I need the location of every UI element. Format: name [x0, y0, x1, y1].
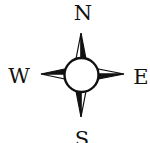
- west-pointer: [41, 69, 65, 79]
- east-label: E: [133, 65, 148, 89]
- south-label: S: [75, 127, 89, 143]
- north-label: N: [74, 1, 92, 25]
- north-pointer: [76, 33, 86, 59]
- compass-rose-diagram: N W E S: [0, 0, 150, 143]
- west-label: W: [8, 64, 30, 88]
- east-pointer: [98, 69, 124, 79]
- south-pointer: [76, 91, 86, 117]
- compass-center-ring: [65, 58, 99, 92]
